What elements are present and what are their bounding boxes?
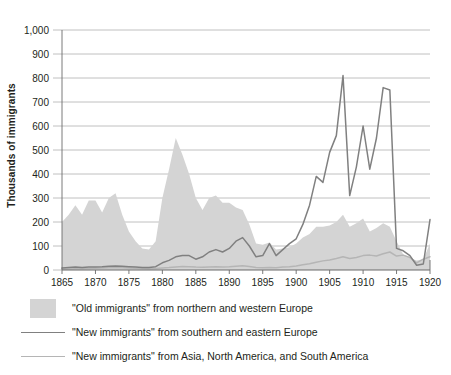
x-axis-tick-label: 1915	[385, 277, 408, 288]
y-axis-tick-labels: 01002003004005006007008009001,000	[24, 25, 49, 276]
legend-item: "New immigrants" from Asia, North Americ…	[18, 344, 448, 368]
x-axis-tick-label: 1920	[419, 277, 442, 288]
legend-item-label: "New immigrants" from southern and easte…	[68, 326, 318, 338]
y-axis-tick-label: 400	[32, 169, 49, 180]
legend-line-swatch-icon	[21, 356, 65, 357]
x-axis-tick-label: 1870	[84, 277, 107, 288]
y-axis-tick-label: 800	[32, 73, 49, 84]
y-axis-tick-label: 0	[43, 265, 49, 276]
x-axis-tick-label: 1890	[218, 277, 241, 288]
data-series	[62, 76, 430, 270]
y-axis-tick-label: 700	[32, 97, 49, 108]
x-axis-tick-label: 1885	[185, 277, 208, 288]
x-axis-tick-label: 1875	[118, 277, 141, 288]
legend-area-swatch-icon	[30, 299, 56, 318]
y-axis-tick-label: 200	[32, 217, 49, 228]
legend-item-label: "New immigrants" from Asia, North Americ…	[68, 350, 368, 362]
chart-legend: "Old immigrants" from northern and weste…	[18, 296, 448, 368]
x-axis-tick-label: 1865	[51, 277, 74, 288]
legend-line-swatch-icon	[21, 332, 65, 333]
legend-item: "Old immigrants" from northern and weste…	[18, 296, 448, 320]
legend-key-line	[18, 356, 68, 357]
x-axis-tick-label: 1880	[151, 277, 174, 288]
x-axis-tick-label: 1910	[352, 277, 375, 288]
series-area-old-immigrants	[62, 138, 430, 270]
x-axis-tick-labels: 1865187018751880188518901895190019051910…	[51, 277, 442, 288]
y-axis-tick-label: 900	[32, 49, 49, 60]
y-axis-tick-label: 300	[32, 193, 49, 204]
y-axis-tick-label: 1,000	[24, 25, 49, 36]
y-axis-tick-label: 600	[32, 121, 49, 132]
legend-item: "New immigrants" from southern and easte…	[18, 320, 448, 344]
legend-item-label: "Old immigrants" from northern and weste…	[68, 302, 313, 314]
y-axis-tick-label: 100	[32, 241, 49, 252]
legend-key-line	[18, 332, 68, 333]
x-axis-tick-label: 1905	[319, 277, 342, 288]
x-axis-tick-label: 1895	[252, 277, 275, 288]
legend-key-area	[18, 299, 68, 318]
x-axis-tick-label: 1900	[285, 277, 308, 288]
immigration-chart-figure: Thousands of immigrants 0100200300400500…	[0, 0, 451, 375]
y-axis-tick-label: 500	[32, 145, 49, 156]
